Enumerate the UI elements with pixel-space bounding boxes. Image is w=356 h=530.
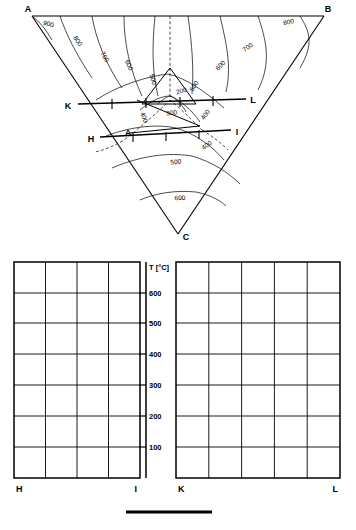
contour-label-600b: 600 — [214, 59, 227, 72]
point-label-H: H — [88, 134, 95, 144]
contour-label-900: 900 — [42, 19, 55, 29]
contour-label-500b: 500 — [188, 79, 200, 92]
temperature-axis-title: T [°C] — [149, 263, 170, 272]
contour-label-600a: 600 — [124, 59, 135, 72]
contour-label-group: 900 800 700 600 500 200 300 400 400 500 … — [42, 17, 294, 201]
contour-800-left — [60, 16, 92, 78]
right-panel-horizontal-gridlines — [176, 293, 340, 447]
point-label-A-inner: A — [125, 128, 132, 138]
point-label-L: L — [250, 95, 256, 105]
contour-label-700b: 700 — [241, 41, 254, 53]
contour-label-700a: 700 — [99, 50, 111, 63]
join-line-KL — [78, 96, 246, 109]
temperature-tick-600: 600 — [149, 289, 162, 298]
contour-label-200: 200 — [175, 86, 188, 96]
diagram-canvas: A B C K L H I A 900 800 700 600 500 200 … — [0, 0, 356, 530]
point-label-I: I — [236, 127, 239, 137]
temperature-tick-200: 200 — [149, 412, 162, 421]
temperature-tick-300: 300 — [149, 381, 162, 390]
contour-600-right — [220, 16, 228, 92]
triangle-outline — [32, 16, 324, 234]
contour-label-400b: 400 — [199, 108, 211, 121]
contour-label-600c: 600 — [174, 194, 185, 201]
temperature-tick-400: 400 — [149, 350, 162, 359]
contour-label-300: 300 — [166, 108, 178, 116]
temperature-tick-100: 100 — [149, 443, 162, 452]
contour-label-800b: 800 — [282, 17, 294, 26]
right-panel-label-L: L — [333, 484, 339, 494]
contour-700-right — [258, 16, 266, 90]
contour-label-500c: 500 — [170, 158, 182, 166]
corner-label-B: B — [325, 4, 332, 14]
contour-label-500a: 500 — [149, 73, 159, 86]
section-panel-right: K L — [176, 262, 340, 494]
figure-root: A B C K L H I A 900 800 700 600 500 200 … — [0, 0, 356, 530]
temperature-tick-500: 500 — [149, 319, 162, 328]
left-panel-label-I: I — [134, 484, 137, 494]
temperature-axis: T [°C] 600 500 400 300 200 100 — [139, 262, 170, 478]
contour-label-800a: 800 — [72, 34, 84, 47]
ternary-diagram: A B C K L H I A 900 800 700 600 500 200 … — [25, 4, 332, 242]
right-panel-vertical-gridlines — [209, 262, 307, 478]
contour-800-right — [300, 16, 309, 68]
corner-label-C: C — [183, 232, 190, 242]
contour-600-left — [124, 16, 142, 96]
left-panel-label-H: H — [16, 484, 23, 494]
edge-AC — [32, 16, 178, 234]
right-panel-label-K: K — [178, 484, 185, 494]
join-KL-line — [78, 99, 246, 104]
right-panel-border — [176, 262, 340, 478]
section-panel-left: H I — [14, 262, 140, 494]
corner-label-A: A — [25, 4, 32, 14]
contour-label-400a: 400 — [139, 111, 149, 124]
point-label-K: K — [65, 101, 72, 111]
left-panel-vertical-gridlines — [46, 262, 109, 478]
